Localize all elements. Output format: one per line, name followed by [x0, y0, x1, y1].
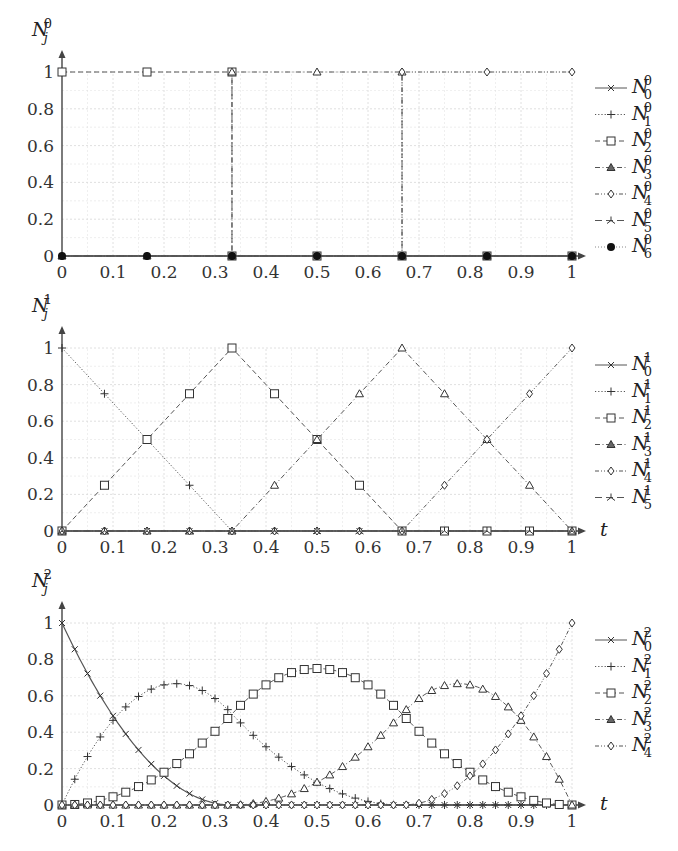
y-tick-label: 0.2	[27, 209, 54, 229]
x-axis-arrow-icon	[578, 253, 586, 260]
legend-entry: N03	[595, 153, 652, 182]
legend-entry: N10	[595, 350, 652, 379]
legend-entry: N13	[595, 430, 652, 459]
x-tick-label: 0.3	[201, 537, 228, 557]
y-tick-label: 0	[43, 246, 54, 266]
legend-entry: N21	[595, 652, 652, 681]
y-tick-label: 0.8	[27, 375, 54, 395]
legend-entry: N11	[595, 377, 652, 406]
x-tick-label: 0.7	[405, 811, 432, 831]
legend-entry: N14	[595, 456, 652, 485]
x-tick-label: 0.4	[252, 537, 279, 557]
svg-text:2: 2	[644, 678, 652, 693]
y-tick-label: 0.6	[27, 686, 54, 706]
x-axis-arrow-icon	[578, 528, 586, 535]
y-axis-label: N1j	[31, 292, 52, 321]
grid	[62, 72, 572, 256]
legend-entry: N24	[595, 731, 652, 760]
chart-panel-2: 00.10.20.30.40.50.60.70.80.9100.20.40.60…	[27, 567, 652, 831]
x-tick-label: 0.1	[99, 262, 126, 282]
legend-entry: N20	[595, 625, 652, 654]
x-tick-label: 0.8	[456, 537, 483, 557]
x-tick-label: 0.5	[303, 537, 330, 557]
legend-entry: N01	[595, 100, 652, 129]
svg-text:0: 0	[644, 100, 652, 115]
y-axis-arrow-icon	[59, 50, 66, 58]
x-axis-label: t	[600, 792, 608, 814]
legend-entry: N23	[595, 705, 652, 734]
svg-text:0: 0	[44, 16, 52, 31]
x-tick-label: 0.2	[150, 262, 177, 282]
svg-text:2: 2	[644, 705, 652, 720]
legend-entry: N22	[595, 678, 652, 707]
x-tick-label: 0.8	[456, 262, 483, 282]
x-tick-label: 0.7	[405, 262, 432, 282]
y-tick-label: 1	[43, 613, 54, 633]
x-tick-label: 0.6	[354, 811, 381, 831]
legend-entry: N15	[595, 483, 652, 512]
y-tick-label: 0.4	[27, 172, 54, 192]
y-tick-label: 0.6	[27, 411, 54, 431]
y-tick-label: 0.4	[27, 722, 54, 742]
x-tick-label: 1	[567, 537, 578, 557]
x-tick-label: 0	[57, 811, 68, 831]
y-axis-arrow-icon	[59, 601, 66, 609]
svg-text:2: 2	[644, 625, 652, 640]
x-tick-label: 0.3	[201, 811, 228, 831]
x-tick-label: 0	[57, 262, 68, 282]
x-tick-label: 0.4	[252, 262, 279, 282]
legend-entry: N00	[595, 73, 652, 102]
svg-text:2: 2	[644, 731, 652, 746]
y-axis-label: N0j	[31, 16, 52, 45]
svg-text:1: 1	[644, 456, 652, 471]
legend-entry: N12	[595, 403, 652, 432]
y-tick-label: 0.2	[27, 484, 54, 504]
y-tick-label: 0.4	[27, 448, 54, 468]
y-axis-label: N2j	[31, 567, 52, 596]
chart-panel-1: 00.10.20.30.40.50.60.70.80.9100.20.40.60…	[27, 292, 652, 557]
legend-entry: N04	[595, 179, 652, 208]
x-tick-label: 0.3	[201, 262, 228, 282]
y-axis-arrow-icon	[59, 326, 66, 334]
x-tick-label: 0.1	[99, 811, 126, 831]
x-tick-label: 0.9	[507, 262, 534, 282]
x-tick-label: 0.8	[456, 811, 483, 831]
x-tick-label: 0.4	[252, 811, 279, 831]
svg-text:1: 1	[644, 377, 652, 392]
x-tick-label: 0.9	[507, 811, 534, 831]
basis-function-charts: 00.10.20.30.40.50.60.70.80.9100.20.40.60…	[0, 0, 678, 851]
x-tick-label: 0.2	[150, 811, 177, 831]
svg-text:6: 6	[644, 246, 652, 261]
chart-panel-0: 00.10.20.30.40.50.60.70.80.9100.20.40.60…	[27, 16, 652, 282]
svg-text:2: 2	[44, 567, 52, 582]
y-tick-label: 0.2	[27, 759, 54, 779]
x-axis-arrow-icon	[578, 802, 586, 809]
x-axis-label: t	[600, 518, 608, 540]
legend-entry: N05	[595, 206, 652, 235]
y-tick-label: 0	[43, 521, 54, 541]
svg-text:0: 0	[644, 73, 652, 88]
svg-text:1: 1	[644, 403, 652, 418]
svg-text:0: 0	[644, 126, 652, 141]
y-tick-label: 0.6	[27, 136, 54, 156]
x-tick-label: 0.2	[150, 537, 177, 557]
x-tick-label: 0	[57, 537, 68, 557]
y-tick-label: 0	[43, 795, 54, 815]
svg-text:1: 1	[44, 292, 52, 307]
y-tick-label: 0.8	[27, 99, 54, 119]
svg-text:2: 2	[644, 652, 652, 667]
x-tick-label: 0.7	[405, 537, 432, 557]
y-tick-label: 1	[43, 338, 54, 358]
svg-text:0: 0	[644, 179, 652, 194]
x-tick-label: 1	[567, 262, 578, 282]
x-tick-label: 0.1	[99, 537, 126, 557]
svg-text:0: 0	[644, 232, 652, 247]
svg-text:1: 1	[644, 350, 652, 365]
legend-entry: N06	[595, 232, 652, 261]
y-tick-label: 0.8	[27, 649, 54, 669]
svg-text:5: 5	[644, 497, 652, 512]
svg-text:1: 1	[644, 483, 652, 498]
x-tick-label: 0.6	[354, 262, 381, 282]
svg-text:4: 4	[644, 745, 652, 760]
x-tick-label: 0.5	[303, 811, 330, 831]
